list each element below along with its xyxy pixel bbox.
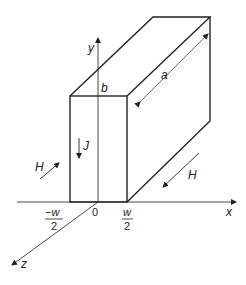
current-density-label: J	[82, 139, 90, 153]
x-axis-label: x	[225, 205, 233, 219]
field-label-right: H	[188, 168, 197, 182]
height-label: b	[101, 81, 108, 95]
conductor-diagram: y x z b a J H H 0 −w 2 w 2	[0, 0, 246, 285]
left-edge-denominator: 2	[51, 220, 57, 232]
right-edge-denominator: 2	[124, 220, 130, 232]
z-axis-label: z	[20, 257, 27, 271]
right-edge-numerator: w	[123, 206, 132, 218]
y-axis-label: y	[87, 41, 95, 55]
length-dimension-arrow	[140, 34, 208, 102]
length-label: a	[161, 68, 168, 82]
origin-label: 0	[92, 206, 98, 218]
left-edge-numerator: −w	[45, 206, 60, 218]
field-label-left: H	[35, 160, 44, 174]
top-face	[70, 17, 210, 96]
